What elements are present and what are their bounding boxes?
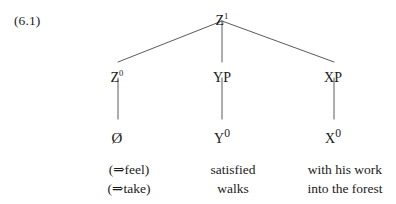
gloss-line: walks [211, 179, 256, 198]
tree-node-z0: Z0 [110, 71, 123, 85]
tree-terminal-y0-superscript: 0 [224, 127, 230, 140]
tree-node-yp-label: YP [213, 70, 231, 85]
gloss-column-xp: with his work into the forest [308, 160, 383, 198]
tree-terminal-x0-label: X [325, 131, 335, 146]
example-number-label: (6.1) [14, 14, 40, 28]
gloss-column-yp: satisfied walks [211, 160, 256, 198]
tree-node-yp: YP [213, 71, 231, 85]
gloss-line: with his work [308, 160, 383, 179]
tree-node-xp-label: XP [324, 70, 342, 85]
tree-node-root: Z1 [215, 14, 228, 28]
gloss-line: into the forest [308, 179, 383, 198]
tree-terminal-x0-superscript: 0 [335, 127, 341, 140]
tree-terminal-y0-label: Y [214, 131, 224, 146]
gloss-column-z0: (⇒feel) (⇒take) [108, 160, 151, 198]
gloss-line: (⇒take) [108, 179, 151, 198]
tree-node-z0-superscript: 0 [119, 68, 123, 78]
tree-terminal-y0: Y0 [214, 128, 230, 146]
tree-edge-Z1-Z0 [118, 21, 222, 62]
tree-terminal-empty-category-label: Ø [112, 130, 123, 146]
tree-node-xp: XP [324, 71, 342, 85]
syntax-tree-figure: (6.1) Z1 Z0 YP XP Ø Y0 X0 (⇒feel) (⇒take… [0, 0, 396, 204]
gloss-line: (⇒feel) [108, 160, 151, 179]
tree-node-root-superscript: 1 [224, 11, 228, 21]
tree-edge-Z1-XP [222, 21, 334, 62]
tree-node-z0-label: Z [110, 70, 119, 85]
gloss-line: satisfied [211, 160, 256, 179]
tree-terminal-x0: X0 [325, 128, 341, 146]
tree-node-root-label: Z [215, 13, 224, 28]
tree-terminal-empty-category: Ø [112, 127, 123, 146]
